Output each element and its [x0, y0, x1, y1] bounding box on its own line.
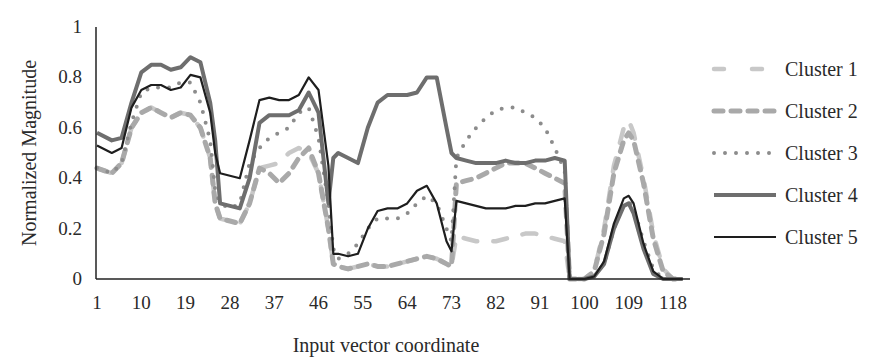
y-tick-label: 0: [73, 268, 83, 289]
x-tick-label: 82: [486, 292, 505, 313]
legend-item-cluster-3: Cluster 3: [714, 142, 858, 164]
series-cluster-2: [97, 108, 683, 279]
y-tick-label: 0.2: [58, 218, 82, 239]
x-tick-label: 19: [176, 292, 195, 313]
legend-item-cluster-1: Cluster 1: [714, 58, 858, 80]
legend-item-cluster-5: Cluster 5: [714, 226, 858, 248]
x-tick-label: 46: [309, 292, 328, 313]
y-tick-label: 0.4: [58, 167, 82, 188]
x-tick-label: 100: [570, 292, 599, 313]
legend-item-cluster-2: Cluster 2: [714, 100, 858, 122]
series-cluster-4: [97, 57, 683, 279]
legend-label: Cluster 3: [785, 142, 858, 164]
legend-label: Cluster 5: [785, 226, 858, 248]
x-tick-label: 28: [220, 292, 239, 313]
series-cluster-5: [97, 75, 683, 279]
y-tick-labels: 00.20.40.60.81: [58, 16, 82, 289]
legend-label: Cluster 4: [785, 184, 858, 206]
series-layer: [97, 57, 683, 279]
x-tick-label: 1: [92, 292, 102, 313]
x-tick-label: 73: [442, 292, 461, 313]
y-tick-label: 0.8: [58, 66, 82, 87]
x-tick-labels: 110192837465564738291100109118: [92, 292, 687, 313]
y-tick-label: 1: [73, 16, 83, 37]
series-cluster-1: [97, 108, 683, 279]
x-tick-label: 55: [353, 292, 372, 313]
x-tick-label: 64: [398, 292, 418, 313]
x-tick-label: 37: [265, 292, 284, 313]
legend: Cluster 1Cluster 2Cluster 3Cluster 4Clus…: [714, 58, 858, 248]
x-tick-label: 109: [614, 292, 643, 313]
x-tick-label: 91: [531, 292, 550, 313]
chart-canvas: 00.20.40.60.81 1101928374655647382911001…: [0, 0, 885, 364]
legend-label: Cluster 1: [785, 58, 858, 80]
x-tick-label: 118: [659, 292, 687, 313]
legend-label: Cluster 2: [785, 100, 858, 122]
y-tick-label: 0.6: [58, 117, 82, 138]
line-chart: 00.20.40.60.81 1101928374655647382911001…: [0, 0, 885, 364]
y-axis-label: Normalized Magnitude: [18, 60, 41, 246]
legend-item-cluster-4: Cluster 4: [714, 184, 858, 206]
x-tick-label: 10: [132, 292, 151, 313]
x-axis-label: Input vector coordinate: [293, 334, 480, 357]
